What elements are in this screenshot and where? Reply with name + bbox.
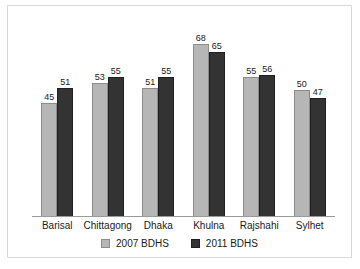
- bar-group: 4551: [32, 14, 83, 217]
- bar-value-label: 47: [313, 87, 323, 97]
- legend-entry[interactable]: 2011 BDHS: [191, 238, 258, 249]
- category-label: Khulna: [184, 220, 235, 231]
- chart-legend: 2007 BDHS2011 BDHS: [8, 238, 351, 249]
- category-label: Barisal: [32, 220, 83, 231]
- bar-item[interactable]: 68: [193, 14, 209, 217]
- bar-rect[interactable]: [142, 88, 158, 217]
- bar-value-label: 45: [44, 92, 54, 102]
- bar-rect[interactable]: [259, 75, 275, 217]
- bar-item[interactable]: 45: [41, 14, 57, 217]
- bar-rect[interactable]: [193, 44, 209, 217]
- baseline-axis: [32, 216, 335, 217]
- bar-item[interactable]: 55: [158, 14, 174, 217]
- bar-item[interactable]: 51: [57, 14, 73, 217]
- bar-group: 5155: [133, 14, 184, 217]
- bar-group: 6865: [184, 14, 235, 217]
- legend-swatch-icon: [101, 239, 110, 248]
- bar-group: 5355: [83, 14, 134, 217]
- bar-value-label: 51: [60, 77, 70, 87]
- bar-rect[interactable]: [243, 77, 259, 217]
- bar-item[interactable]: 55: [108, 14, 124, 217]
- legend-entry[interactable]: 2007 BDHS: [101, 238, 169, 249]
- bar-group: 5047: [285, 14, 336, 217]
- bar-value-label: 55: [161, 66, 171, 76]
- bar-item[interactable]: 56: [259, 14, 275, 217]
- plot-area: 455153555155686555565047: [32, 14, 335, 217]
- bar-value-label: 68: [196, 33, 206, 43]
- bar-rect[interactable]: [57, 88, 73, 217]
- bar-item[interactable]: 53: [92, 14, 108, 217]
- bar-rect[interactable]: [158, 77, 174, 217]
- bar-value-label: 56: [262, 64, 272, 74]
- bar-rect[interactable]: [294, 90, 310, 217]
- bar-item[interactable]: 50: [294, 14, 310, 217]
- legend-label: 2007 BDHS: [116, 238, 169, 249]
- bar-item[interactable]: 51: [142, 14, 158, 217]
- bar-value-label: 51: [145, 77, 155, 87]
- bar-rect[interactable]: [41, 103, 57, 217]
- bar-value-label: 55: [111, 66, 121, 76]
- category-label: Dhaka: [133, 220, 184, 231]
- bar-value-label: 53: [95, 72, 105, 82]
- chart-figure: 455153555155686555565047 BarisalChittago…: [7, 5, 352, 258]
- category-label: Rajshahi: [234, 220, 285, 231]
- bar-rect[interactable]: [209, 52, 225, 217]
- category-label: Sylhet: [285, 220, 336, 231]
- bar-rect[interactable]: [310, 98, 326, 217]
- bar-value-label: 65: [212, 41, 222, 51]
- legend-label: 2011 BDHS: [206, 238, 258, 249]
- bar-rect[interactable]: [108, 77, 124, 217]
- bar-group: 5556: [234, 14, 285, 217]
- bar-value-label: 55: [246, 66, 256, 76]
- legend-swatch-icon: [191, 239, 200, 248]
- bar-item[interactable]: 55: [243, 14, 259, 217]
- bar-rect[interactable]: [92, 83, 108, 217]
- category-axis: BarisalChittagongDhakaKhulnaRajshahiSylh…: [32, 218, 335, 236]
- bar-item[interactable]: 47: [310, 14, 326, 217]
- bar-item[interactable]: 65: [209, 14, 225, 217]
- bar-value-label: 50: [297, 79, 307, 89]
- category-label: Chittagong: [83, 220, 134, 231]
